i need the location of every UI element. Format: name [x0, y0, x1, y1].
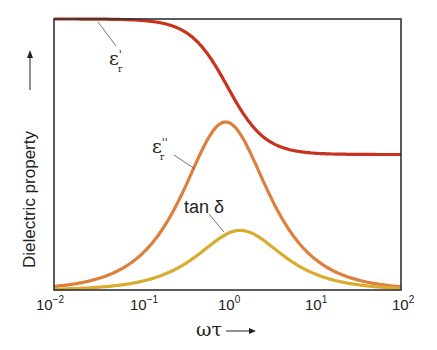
annotation-leader-eps-imag: [174, 155, 195, 169]
x-tick-labels: 10−2 10−1 100 101 102: [36, 294, 415, 313]
series-line-1: [54, 122, 401, 287]
annotation-tan-delta: tan δ: [184, 197, 224, 217]
x-tick-label: 100: [218, 294, 241, 313]
x-tick-label: 10−2: [36, 294, 65, 313]
curves: [54, 19, 401, 289]
annotation-eps-imag: ε''r: [152, 135, 168, 162]
x-axis-arrow-icon: [226, 328, 256, 334]
annotation-eps-real: ε'r: [109, 47, 123, 74]
x-tick-label: 102: [392, 294, 415, 313]
annotation-leader-eps-real: [98, 22, 116, 46]
y-axis-label: Dielectric property: [20, 131, 39, 268]
x-tick-label: 10−1: [130, 294, 159, 313]
series-line-0: [54, 19, 401, 155]
y-axis-arrow-icon: [27, 50, 33, 90]
dielectric-relaxation-chart: ε'r ε''r tan δ 10−2 10−1 100 101 102 ωτ …: [0, 0, 437, 350]
x-axis-label: ωτ: [196, 318, 222, 340]
x-tick-label: 101: [305, 294, 328, 313]
series-line-2: [54, 230, 401, 289]
